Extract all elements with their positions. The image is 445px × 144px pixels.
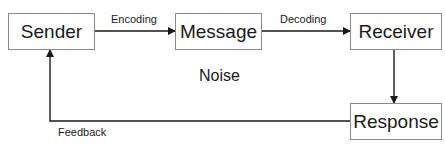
decoding-label: Decoding: [280, 13, 326, 25]
feedback-arrow: [50, 50, 350, 121]
node-receiver-label: Receiver: [359, 21, 434, 43]
encoding-label: Encoding: [111, 13, 157, 25]
node-response: Response: [350, 103, 442, 140]
noise-label: Noise: [199, 67, 240, 85]
node-sender-label: Sender: [21, 21, 82, 43]
node-sender: Sender: [8, 13, 95, 50]
feedback-label: Feedback: [58, 126, 106, 138]
node-receiver: Receiver: [350, 13, 442, 50]
node-message-label: Message: [180, 21, 257, 43]
node-message: Message: [175, 13, 262, 50]
node-response-label: Response: [353, 111, 439, 133]
